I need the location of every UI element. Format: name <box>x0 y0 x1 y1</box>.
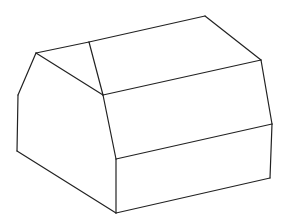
edge-left_bottom-front_bottom <box>17 151 116 213</box>
edge-top_left-left_bend <box>18 53 36 95</box>
edge-inner_front-right_top <box>103 60 261 95</box>
edge-left_bend-left_bottom <box>17 95 18 151</box>
edge-inner_front-front_mid <box>103 95 116 159</box>
edge-ridge_back-right_top <box>205 16 261 60</box>
solid-line-drawing <box>0 0 294 222</box>
edge-front_mid-right_mid <box>116 124 272 159</box>
edge-right_top-right_mid <box>261 60 272 124</box>
edge-front_bottom-right_bottom <box>116 178 270 213</box>
edge-ridge_front-ridge_back <box>89 16 205 42</box>
edge-right_mid-right_bottom <box>270 124 272 178</box>
drawing-canvas <box>0 0 294 222</box>
edge-top_left-ridge_front <box>36 42 89 53</box>
